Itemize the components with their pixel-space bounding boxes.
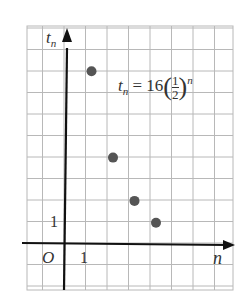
y-label-sub: n <box>51 37 57 49</box>
data-point <box>108 153 118 163</box>
formula-sub: n <box>123 85 129 97</box>
chart-canvas <box>0 0 245 305</box>
data-point <box>130 196 140 206</box>
formula-annotation: tn = 16(12)n <box>118 72 193 102</box>
grid-border <box>27 26 233 290</box>
data-point <box>87 66 97 76</box>
x-axis-label: n <box>213 248 222 269</box>
origin-label: O <box>42 248 54 268</box>
y-tick-label: 1 <box>50 213 58 231</box>
formula-eq: = 16 <box>132 76 163 95</box>
data-point <box>151 218 161 228</box>
x-tick-label: 1 <box>80 249 88 267</box>
y-axis-label: tn <box>46 28 56 49</box>
formula-exp: n <box>187 74 193 86</box>
